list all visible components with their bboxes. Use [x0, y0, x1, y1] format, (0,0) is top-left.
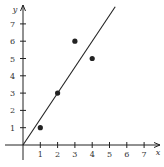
x-tick-label: 3 [72, 150, 77, 159]
y-axis-label: y [12, 5, 18, 14]
x-axis-label: x [156, 148, 161, 157]
data-point [55, 91, 60, 96]
fitted-line-segment [23, 7, 115, 145]
ticks: 12345671234567 [10, 20, 147, 159]
scatter-chart: xy 12345671234567 [0, 0, 164, 167]
x-tick-label: 7 [142, 150, 147, 159]
data-point [72, 39, 77, 44]
y-tick-label: 6 [10, 37, 15, 46]
x-tick-label: 6 [124, 150, 129, 159]
y-tick-label: 5 [10, 55, 15, 64]
x-tick-label: 5 [107, 150, 112, 159]
data-point [38, 125, 43, 130]
y-tick-label: 1 [10, 124, 15, 133]
data-points [38, 39, 95, 131]
y-tick-label: 4 [10, 72, 15, 81]
y-tick-label: 7 [10, 20, 15, 29]
x-tick-label: 2 [55, 150, 60, 159]
y-tick-label: 3 [10, 89, 15, 98]
data-point [90, 56, 95, 61]
y-tick-label: 2 [10, 106, 15, 115]
fitted-line [23, 7, 115, 145]
x-tick-label: 4 [90, 150, 95, 159]
x-tick-label: 1 [38, 150, 43, 159]
